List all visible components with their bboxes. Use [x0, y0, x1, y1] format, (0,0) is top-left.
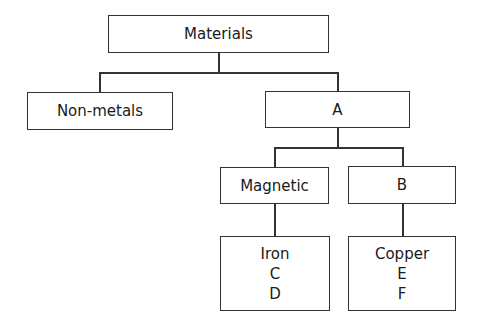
connector-b-to-examples [402, 204, 404, 236]
node-b-label: B [397, 175, 407, 195]
node-materials-label: Materials [184, 24, 253, 44]
example-f: F [398, 284, 407, 304]
example-copper: Copper [375, 244, 429, 264]
node-materials: Materials [108, 15, 329, 53]
example-d: D [269, 284, 281, 304]
example-iron: Iron [261, 244, 290, 264]
node-a: A [265, 91, 410, 128]
connector-to-non-metals [99, 72, 101, 92]
example-e: E [397, 264, 406, 284]
example-c: C [270, 264, 280, 284]
node-magnetic: Magnetic [220, 167, 329, 204]
connector-level1-horizontal [99, 72, 338, 74]
connector-a-down [337, 128, 339, 148]
node-b-examples: Copper E F [348, 236, 456, 311]
connector-materials-down [218, 53, 220, 73]
node-non-metals-label: Non-metals [57, 101, 143, 121]
node-a-label: A [332, 100, 342, 120]
connector-to-b [402, 147, 404, 166]
node-magnetic-label: Magnetic [240, 176, 309, 196]
connector-to-a [337, 72, 339, 91]
node-non-metals: Non-metals [27, 92, 173, 130]
node-magnetic-examples: Iron C D [220, 236, 330, 311]
connector-magnetic-to-examples [274, 204, 276, 236]
connector-to-magnetic [274, 147, 276, 167]
connector-level2-horizontal [274, 147, 403, 149]
node-b: B [348, 166, 456, 204]
